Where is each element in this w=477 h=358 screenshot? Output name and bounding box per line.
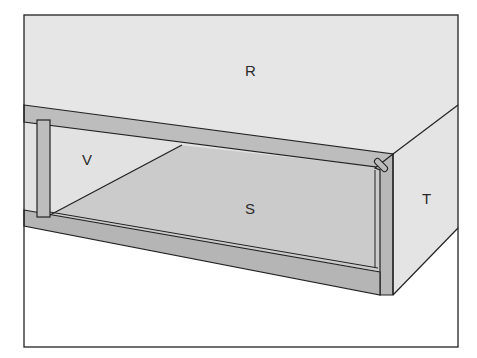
- label-t: T: [422, 190, 431, 207]
- left-post: [37, 120, 50, 217]
- box-diagram: R V S T: [0, 0, 477, 358]
- label-s: S: [245, 200, 255, 217]
- label-v: V: [82, 151, 92, 168]
- label-r: R: [245, 62, 256, 79]
